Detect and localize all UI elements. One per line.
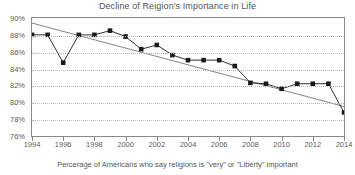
y-tick-label: 82% xyxy=(10,81,25,90)
gridline xyxy=(32,120,344,121)
gridline xyxy=(32,86,344,87)
data-point-marker: 2005: 85% xyxy=(201,58,206,63)
x-tick-label: 2000 xyxy=(117,140,134,149)
x-tick-label: 1996 xyxy=(55,140,72,149)
chart-container: Decline of Reigion's Importance in Life … xyxy=(0,0,355,175)
y-tick-label: 90% xyxy=(10,14,25,23)
data-point-marker: 2011: 82.2% xyxy=(295,81,300,86)
data-point-marker: 2008: 82.3% xyxy=(248,81,253,86)
x-tick-label: 2008 xyxy=(242,140,259,149)
x-tick-label: 2012 xyxy=(304,140,321,149)
series-line xyxy=(32,31,344,113)
data-point-marker: 2009: 82.2% xyxy=(264,81,269,86)
plot-area: 1994: 88%1995: 88%1996: 84.7%1997: 88%19… xyxy=(31,17,345,137)
x-tick-label: 1994 xyxy=(24,140,41,149)
y-axis: 90%88%86%84%82%80%78%76% xyxy=(0,17,28,138)
gridline xyxy=(32,70,344,71)
x-axis: 1994199619982000200220042006200820102012… xyxy=(31,140,345,152)
x-tick-label: 2010 xyxy=(273,140,290,149)
y-tick-label: 88% xyxy=(10,30,25,39)
y-tick-label: 80% xyxy=(10,98,25,107)
y-tick-label: 86% xyxy=(10,47,25,56)
data-point-marker: 2004: 85% xyxy=(186,58,191,63)
x-tick-label: 2014 xyxy=(336,140,353,149)
gridline xyxy=(32,36,344,37)
gridline xyxy=(32,53,344,54)
chart-title: Decline of Reigion's Importance in Life xyxy=(0,1,355,11)
data-point-marker: 2006: 85% xyxy=(217,58,222,63)
x-tick-label: 1998 xyxy=(86,140,103,149)
gridline xyxy=(32,103,344,104)
x-tick-label: 2002 xyxy=(148,140,165,149)
data-point-marker: 1999: 88.5% xyxy=(108,28,113,33)
data-point-marker: 2007: 84.3% xyxy=(233,64,238,69)
data-point-marker: 1996: 84.7% xyxy=(61,60,66,65)
x-tick-label: 2006 xyxy=(211,140,228,149)
chart-subtitle: Percerage of Americans who say religions… xyxy=(0,160,355,169)
x-tick-label: 2004 xyxy=(180,140,197,149)
data-point-marker: 2013: 82.2% xyxy=(326,81,331,86)
y-tick-label: 78% xyxy=(10,115,25,124)
data-point-marker: 2001: 86.3% xyxy=(139,47,144,52)
data-point-marker: 2014: 78.8% xyxy=(342,110,344,115)
data-point-marker: 2012: 82.2% xyxy=(311,81,316,86)
data-point-marker: 2002: 86.8% xyxy=(155,43,160,48)
y-tick-label: 84% xyxy=(10,64,25,73)
